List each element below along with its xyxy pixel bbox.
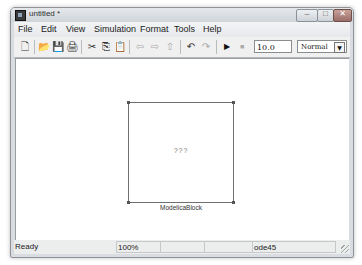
stop-icon: ■ — [240, 43, 244, 50]
save-icon: 💾 — [52, 42, 64, 52]
undo-icon: ↶ — [187, 42, 195, 52]
model-canvas[interactable]: ??? ModelicaBlock — [15, 58, 349, 240]
arrow-left-icon: ⇦ — [136, 42, 144, 52]
forward-button[interactable]: ⇨ — [149, 40, 161, 53]
simulink-model-icon — [15, 10, 26, 21]
toolbar-separator — [216, 40, 217, 54]
open-folder-icon: 📂 — [38, 42, 50, 52]
model-window: untitled * – □ ✕ File Edit View Simulati… — [10, 7, 354, 258]
close-icon: ✕ — [334, 9, 351, 18]
minimize-button[interactable]: – — [296, 9, 318, 22]
menu-simulation[interactable]: Simulation — [94, 24, 136, 34]
simulation-mode-select[interactable]: Normal ▼ — [297, 40, 347, 53]
menu-tools[interactable]: Tools — [174, 24, 195, 34]
status-text: Ready — [14, 241, 116, 253]
start-simulation-button[interactable]: ▶ — [221, 40, 233, 53]
redo-button[interactable]: ↷ — [200, 40, 212, 53]
simulation-mode-value: Normal — [301, 43, 328, 51]
block-content-text: ??? — [129, 147, 233, 154]
redo-icon: ↷ — [202, 42, 210, 52]
play-icon: ▶ — [224, 43, 230, 51]
paste-icon: 📋 — [114, 42, 126, 52]
stop-simulation-button[interactable]: ■ — [236, 40, 248, 53]
undo-button[interactable]: ↶ — [185, 40, 197, 53]
block-name-label[interactable]: ModelicaBlock — [128, 204, 234, 211]
menu-file[interactable]: File — [18, 24, 33, 34]
new-document-icon: 🗋 — [21, 42, 29, 52]
up-button[interactable]: ⇧ — [164, 40, 176, 53]
cut-icon: ✂ — [88, 42, 96, 52]
menu-view[interactable]: View — [66, 24, 85, 34]
open-button[interactable]: 📂 — [38, 40, 50, 53]
toolbar-separator — [180, 40, 181, 54]
menu-format[interactable]: Format — [140, 24, 169, 34]
toolbar: 🗋 📂 💾 🖨 ✂ ⎘ 📋 ⇦ ⇨ ⇧ ↶ ↷ ▶ ■ 10.0 Normal … — [14, 37, 350, 58]
copy-button[interactable]: ⎘ — [100, 40, 112, 53]
print-icon: 🖨 — [66, 42, 79, 52]
status-bar: Ready 100% ode45 — [14, 240, 350, 254]
paste-button[interactable]: 📋 — [114, 40, 126, 53]
chevron-down-icon[interactable]: ▼ — [334, 42, 345, 53]
zoom-level: 100% — [116, 241, 160, 253]
save-button[interactable]: 💾 — [52, 40, 64, 53]
arrow-right-icon: ⇨ — [151, 42, 159, 52]
print-button[interactable]: 🖨 — [66, 40, 78, 53]
maximize-icon: □ — [318, 9, 333, 18]
toolbar-separator — [81, 40, 82, 54]
menu-help[interactable]: Help — [203, 24, 222, 34]
resize-handle-top-right[interactable] — [232, 101, 235, 104]
window-title: untitled * — [29, 9, 60, 18]
status-cell-empty — [204, 241, 252, 253]
copy-icon: ⎘ — [102, 42, 110, 52]
solver-name: ode45 — [252, 241, 336, 253]
status-cell-empty — [160, 241, 204, 253]
modelica-block[interactable]: ??? — [128, 102, 234, 203]
toolbar-separator — [129, 40, 130, 54]
title-bar[interactable]: untitled * – □ ✕ — [11, 8, 353, 22]
close-button[interactable]: ✕ — [333, 9, 352, 22]
stop-time-input[interactable]: 10.0 — [254, 40, 292, 53]
toolbar-separator — [34, 40, 35, 54]
minimize-icon: – — [297, 9, 317, 18]
menu-edit[interactable]: Edit — [41, 24, 57, 34]
maximize-button[interactable]: □ — [317, 9, 334, 22]
back-button[interactable]: ⇦ — [134, 40, 146, 53]
resize-handle-top-left[interactable] — [127, 101, 130, 104]
new-model-button[interactable]: 🗋 — [19, 40, 31, 53]
resize-grip-icon[interactable] — [341, 245, 349, 253]
menu-bar: File Edit View Simulation Format Tools H… — [14, 22, 350, 37]
cut-button[interactable]: ✂ — [86, 40, 98, 53]
arrow-up-icon: ⇧ — [166, 42, 174, 52]
